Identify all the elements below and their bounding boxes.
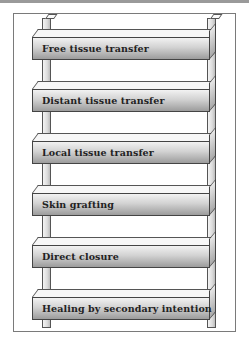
rung-direct-closure: Direct closure — [32, 237, 216, 269]
rung-label: Free tissue transfer — [42, 43, 149, 54]
rung-label: Direct closure — [42, 251, 119, 262]
right-rail — [207, 18, 216, 328]
rung-front-face: Local tissue transfer — [32, 141, 210, 164]
rung-top-face — [32, 289, 216, 297]
rung-top-face — [32, 133, 216, 141]
rung-front-face: Healing by secondary intention — [32, 297, 210, 320]
rung-top-face — [32, 185, 216, 193]
rung-top-face — [32, 29, 216, 37]
rung-healing-by-secondary-intention: Healing by secondary intention — [32, 289, 216, 321]
rung-label: Healing by secondary intention — [42, 303, 212, 314]
rung-front-face: Free tissue transfer — [32, 37, 210, 60]
rung-front-face: Distant tissue transfer — [32, 89, 210, 112]
rung-skin-grafting: Skin grafting — [32, 185, 216, 217]
rung-label: Distant tissue transfer — [42, 95, 165, 106]
rung-side-face — [209, 23, 216, 60]
rung-side-face — [209, 75, 216, 112]
rung-top-face — [32, 81, 216, 89]
rung-front-face: Skin grafting — [32, 193, 210, 216]
left-rail — [42, 18, 51, 328]
rung-local-tissue-transfer: Local tissue transfer — [32, 133, 216, 165]
rung-free-tissue-transfer: Free tissue transfer — [32, 29, 216, 61]
rung-label: Skin grafting — [42, 199, 114, 210]
rung-top-face — [32, 237, 216, 245]
rung-label: Local tissue transfer — [42, 147, 154, 158]
rung-side-face — [209, 127, 216, 164]
rung-distant-tissue-transfer: Distant tissue transfer — [32, 81, 216, 113]
rung-front-face: Direct closure — [32, 245, 210, 268]
rung-side-face — [209, 179, 216, 216]
rung-side-face — [209, 231, 216, 268]
top-rule — [0, 0, 249, 3]
rung-side-face — [209, 283, 216, 320]
